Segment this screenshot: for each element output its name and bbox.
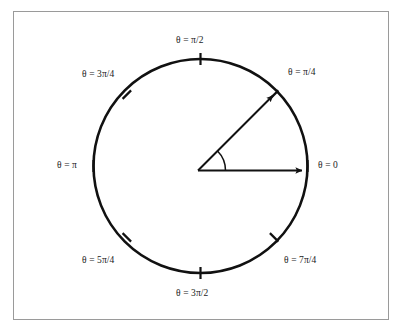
- label-theta-pi-2: θ = π/2: [176, 36, 204, 46]
- tick-marks: [94, 53, 308, 279]
- label-theta-0: θ = 0: [318, 161, 338, 171]
- figure-root: θ = 0 θ = π/4 θ = π/2 θ = 3π/4 θ = π θ =…: [0, 0, 402, 332]
- label-theta-3pi-2: θ = 3π/2: [176, 289, 208, 299]
- label-theta-5pi-4: θ = 5π/4: [82, 256, 114, 266]
- label-theta-pi-4: θ = π/4: [288, 68, 316, 78]
- label-theta-pi: θ = π: [57, 161, 77, 171]
- tick-mark-7pi-4: [270, 233, 279, 242]
- label-theta-3pi-4: θ = 3π/4: [82, 70, 114, 80]
- unit-circle: [94, 59, 308, 273]
- angle-arc: [218, 151, 226, 171]
- label-theta-7pi-4: θ = 7π/4: [284, 256, 316, 266]
- angle-vector-arrow: [198, 96, 273, 171]
